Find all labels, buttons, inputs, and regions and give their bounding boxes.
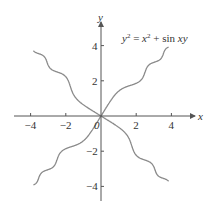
x-tick-label: 0 [94, 119, 100, 131]
x-tick-label: −2 [60, 119, 72, 131]
y-tick-label: 4 [92, 40, 98, 52]
y-tick-label: −4 [86, 180, 98, 192]
y-tick-label: 2 [92, 75, 98, 87]
x-tick-label: −4 [25, 119, 37, 131]
y-axis-label: y [97, 11, 103, 23]
x-tick-label: 4 [168, 119, 174, 131]
equation-label: y2 = x2 + sin xy [121, 32, 188, 44]
x-axis-label: x [197, 110, 203, 122]
y-tick-label: −2 [86, 145, 98, 157]
x-tick-label: 2 [133, 119, 139, 131]
implicit-curve-plot: −4−2024−4−224 x y y2 = x2 + sin xy [0, 0, 218, 209]
